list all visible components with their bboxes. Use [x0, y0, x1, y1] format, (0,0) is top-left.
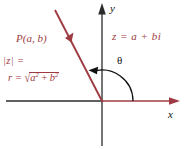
z-formula-label: z = a + bi	[112, 31, 161, 42]
angle-arc-arrowhead-icon	[89, 67, 99, 74]
square-root-icon: √	[24, 72, 30, 85]
modulus-label: |z| =	[3, 56, 25, 67]
square-root-expression: √a2+b2	[24, 72, 59, 84]
vector-ray-line	[55, 10, 103, 102]
vector-ray-arrowhead-icon	[65, 33, 74, 43]
x-axis-label: x	[168, 109, 173, 120]
complex-plane-figure: P(a, b) z = a + bi |z| = r = √a2+b2 θ y …	[0, 0, 185, 149]
point-label: P(a, b)	[16, 33, 47, 44]
y-axis-arrowhead-icon	[98, 3, 106, 15]
theta-label: θ	[117, 55, 122, 66]
y-axis-label: y	[110, 3, 115, 14]
x-axis-arrowhead-icon	[169, 97, 180, 104]
radicand-b-exponent: 2	[55, 71, 58, 78]
radius-formula-label: r = √a2+b2	[8, 72, 59, 84]
radius-prefix-text: r =	[8, 72, 22, 83]
radicand-plus-operator: +	[39, 72, 50, 83]
radicand-group: a2+b2	[29, 72, 59, 84]
